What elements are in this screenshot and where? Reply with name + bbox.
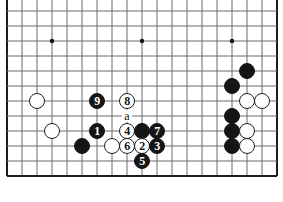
star-point (140, 39, 144, 43)
move-number: 9 (94, 95, 100, 107)
move-number: 5 (139, 155, 145, 167)
move-number: 7 (154, 125, 160, 137)
go-diagram-figure: 918462735a (0, 0, 283, 202)
point-label-a: a (122, 110, 132, 122)
move-number: 1 (94, 125, 100, 137)
move-number: 3 (154, 140, 160, 152)
star-point (230, 39, 234, 43)
move-number: 6 (124, 140, 130, 152)
star-point (50, 39, 54, 43)
move-number: 4 (124, 125, 130, 137)
move-number: 2 (139, 140, 145, 152)
move-number: 8 (124, 95, 130, 107)
